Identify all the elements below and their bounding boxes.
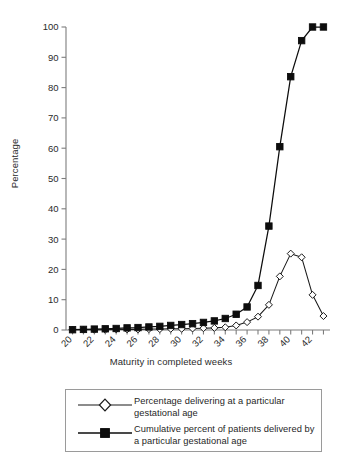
x-axis-tick-label: 26 [124, 334, 139, 349]
y-axis-tick-label: 100 [43, 21, 59, 32]
x-axis-tick-label: 20 [59, 334, 74, 349]
data-point-marker [146, 324, 152, 330]
x-axis-title: Maturity in completed weeks [0, 356, 342, 367]
data-point-marker [200, 319, 206, 325]
filled-square-marker-icon [76, 425, 134, 441]
data-point-marker [168, 322, 174, 328]
data-point-marker [276, 273, 283, 280]
legend-key-filled-square [76, 425, 134, 441]
data-point-marker [309, 291, 316, 298]
data-point-marker [233, 311, 239, 317]
x-axis-tick-label: 28 [146, 334, 161, 349]
legend-key-open-diamond [76, 397, 134, 413]
y-axis-tick-label: 30 [48, 234, 59, 245]
chart-legend: Percentage delivering at a particular ge… [65, 389, 322, 452]
data-point-marker [80, 326, 86, 332]
x-axis-tick-label: 34 [211, 334, 226, 349]
y-axis-tick-label: 70 [48, 112, 59, 123]
data-point-marker [211, 318, 217, 324]
y-axis-tick-label: 50 [48, 173, 59, 184]
y-axis-tick-label: 60 [48, 143, 59, 154]
open-diamond-marker-icon [76, 397, 134, 413]
y-axis-tick-label: 10 [48, 294, 59, 305]
data-point-marker [69, 327, 75, 333]
data-point-marker [320, 24, 326, 30]
data-point-marker [244, 319, 251, 326]
x-axis-tick-label: 24 [102, 334, 117, 349]
data-point-marker [277, 143, 283, 149]
legend-label-cumulative-percent: Cumulative percent of patients delivered… [134, 424, 321, 447]
data-point-marker [113, 325, 119, 331]
data-point-marker [189, 320, 195, 326]
data-point-marker [298, 37, 304, 43]
data-point-marker [91, 326, 97, 332]
series-cumulative [69, 24, 326, 333]
data-point-marker [288, 73, 294, 79]
data-point-marker [266, 223, 272, 229]
data-point-marker [178, 321, 184, 327]
data-point-marker [157, 323, 163, 329]
data-point-marker [124, 325, 130, 331]
data-point-marker [233, 322, 240, 329]
data-point-marker [320, 313, 327, 320]
y-axis-tick-label: 80 [48, 82, 59, 93]
y-axis-tick-label: 0 [53, 324, 58, 335]
x-axis-tick-label: 30 [168, 334, 183, 349]
y-axis-tick-label: 90 [48, 52, 59, 63]
data-point-marker [298, 254, 305, 261]
x-axis-tick-label: 38 [255, 334, 270, 349]
legend-entry-cumulative-percent: Cumulative percent of patients delivered… [66, 424, 321, 452]
figure-root: 0102030405060708090100202224262830323436… [0, 0, 342, 474]
data-point-marker [309, 24, 315, 30]
x-axis-tick-label: 32 [190, 334, 205, 349]
y-axis-tick-label: 40 [48, 203, 59, 214]
legend-label-percentage-delivering: Percentage delivering at a particular ge… [134, 396, 321, 419]
data-point-marker [255, 282, 261, 288]
x-axis-tick-label: 42 [299, 334, 314, 349]
data-point-marker [222, 315, 228, 321]
y-axis-tick-label: 20 [48, 264, 59, 275]
data-point-marker [287, 250, 294, 257]
data-point-marker [135, 324, 141, 330]
chart-plot-area: 0102030405060708090100202224262830323436… [0, 0, 342, 378]
y-axis-title: Percentage [9, 124, 20, 204]
data-point-marker [102, 326, 108, 332]
data-point-marker [244, 304, 250, 310]
legend-entry-percentage-delivering: Percentage delivering at a particular ge… [66, 396, 321, 424]
series-per-week [69, 250, 327, 333]
chart-svg: 0102030405060708090100202224262830323436… [0, 0, 342, 378]
x-axis-tick-label: 40 [277, 334, 292, 349]
x-axis-tick-label: 22 [81, 334, 96, 349]
x-axis-tick-label: 36 [233, 334, 248, 349]
